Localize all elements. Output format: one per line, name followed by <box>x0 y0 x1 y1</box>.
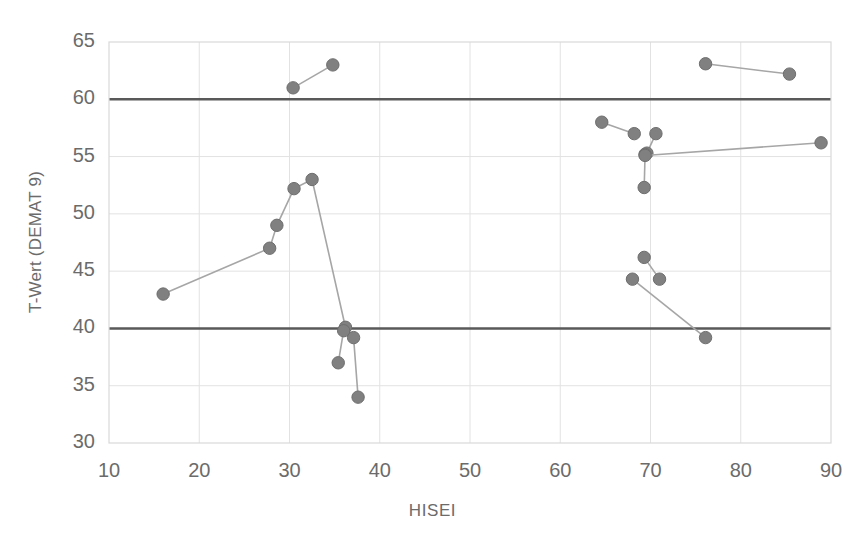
series-line <box>645 143 821 156</box>
data-point <box>596 116 608 128</box>
y-axis-tick-label: 35 <box>40 373 95 396</box>
data-point <box>653 273 665 285</box>
series-line <box>163 179 358 397</box>
y-axis-title: T-Wert (DEMAT 9) <box>26 170 46 312</box>
data-series <box>157 173 364 403</box>
data-point <box>271 219 283 231</box>
x-axis-tick-label: 30 <box>260 459 320 482</box>
data-series <box>699 58 795 81</box>
data-point <box>337 325 349 337</box>
y-axis-tick-label: 45 <box>40 258 95 281</box>
y-axis-tick-label: 50 <box>40 201 95 224</box>
data-point <box>352 391 364 403</box>
data-point <box>157 288 169 300</box>
x-axis-tick-label: 40 <box>350 459 410 482</box>
data-series <box>638 251 666 285</box>
data-point <box>287 82 299 94</box>
series-line <box>706 64 790 74</box>
data-series <box>639 137 827 162</box>
data-series <box>332 325 350 369</box>
x-axis-tick-label: 70 <box>621 459 681 482</box>
data-series <box>596 116 641 140</box>
x-axis-tick-label: 20 <box>169 459 229 482</box>
x-axis-tick-label: 60 <box>530 459 590 482</box>
data-point <box>650 127 662 139</box>
x-axis-tick-label: 80 <box>711 459 771 482</box>
data-point <box>815 137 827 149</box>
x-axis-tick-label: 50 <box>440 459 500 482</box>
y-axis-tick-label: 40 <box>40 315 95 338</box>
data-point <box>638 251 650 263</box>
data-series <box>626 273 712 344</box>
y-axis-tick-label: 65 <box>40 29 95 52</box>
data-point <box>327 59 339 71</box>
series-line <box>293 65 333 88</box>
x-axis-title: HISEI <box>0 501 865 521</box>
data-point <box>699 331 711 343</box>
gridlines <box>109 42 831 443</box>
data-point <box>332 357 344 369</box>
x-axis-tick-label: 90 <box>801 459 861 482</box>
data-point <box>639 149 651 161</box>
data-point <box>626 273 638 285</box>
x-axis-tick-label: 10 <box>79 459 139 482</box>
data-point <box>306 173 318 185</box>
data-series <box>287 59 339 94</box>
y-axis-tick-label: 60 <box>40 86 95 109</box>
data-point <box>288 182 300 194</box>
plot-canvas <box>0 0 865 536</box>
y-axis-tick-label: 55 <box>40 144 95 167</box>
data-point <box>638 181 650 193</box>
data-point <box>628 127 640 139</box>
data-point <box>783 68 795 80</box>
data-point <box>699 58 711 70</box>
data-series-layer <box>157 58 827 404</box>
scatter-chart: 6560555045403530 102030405060708090 T-We… <box>0 0 865 536</box>
y-axis-tick-label: 30 <box>40 430 95 453</box>
data-point <box>263 242 275 254</box>
